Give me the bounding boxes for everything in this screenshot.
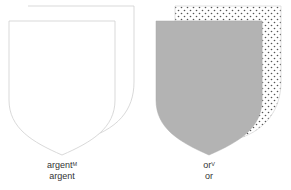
argent-superscript: M bbox=[72, 161, 77, 167]
argent-label-line1: argent bbox=[47, 160, 73, 170]
argent-label-line2: argent bbox=[49, 171, 75, 181]
or-superscript: V bbox=[211, 161, 215, 167]
or-label: orV or bbox=[159, 160, 259, 182]
or-label-line1: or bbox=[203, 160, 211, 170]
argent-label: argentM argent bbox=[12, 160, 112, 182]
or-label-line2: or bbox=[205, 171, 213, 181]
argent-front-shield bbox=[9, 21, 115, 155]
